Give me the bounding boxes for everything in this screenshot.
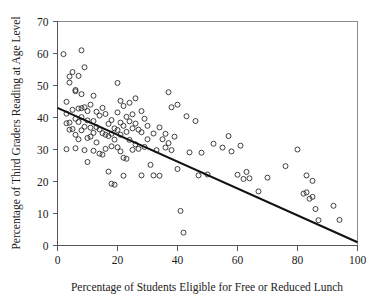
data-point [331, 203, 336, 208]
data-point [76, 73, 81, 78]
x-axis-ticks: 020406080100 [55, 246, 367, 266]
data-point [178, 208, 183, 213]
data-point [103, 111, 108, 116]
data-point [115, 80, 120, 85]
data-point [103, 146, 108, 151]
data-point [193, 119, 198, 124]
data-point [97, 113, 102, 118]
y-tick-label: 70 [37, 16, 49, 28]
y-tick-label: 40 [37, 112, 49, 124]
data-point [76, 137, 81, 142]
x-axis-title: Percentage of Students Eligible for Free… [71, 281, 343, 294]
data-point [163, 145, 168, 150]
scatter-plot-figure: 020406080100 010203040506070 Percentage … [0, 0, 382, 302]
y-tick-label: 30 [37, 144, 49, 156]
data-point [70, 107, 75, 112]
data-points-layer [61, 48, 342, 235]
data-point [109, 181, 114, 186]
plot-frame [58, 22, 358, 246]
data-point [130, 147, 135, 152]
data-point [283, 164, 288, 169]
data-point [109, 144, 114, 149]
data-point [175, 102, 180, 107]
y-tick-label: 10 [37, 208, 49, 220]
data-point [85, 135, 90, 140]
data-point [256, 189, 261, 194]
data-point [91, 130, 96, 135]
data-point [196, 173, 201, 178]
data-point [82, 148, 87, 153]
data-point [175, 167, 180, 172]
y-tick-label: 50 [37, 80, 49, 92]
data-point [301, 191, 306, 196]
data-point [133, 121, 138, 126]
data-point [76, 119, 81, 124]
data-point [94, 140, 99, 145]
data-point [64, 147, 69, 152]
data-point [172, 134, 177, 139]
data-point [211, 141, 216, 146]
data-point [265, 175, 270, 180]
data-point [244, 169, 249, 174]
data-point [151, 131, 156, 136]
data-point [100, 105, 105, 110]
data-point [310, 178, 315, 183]
data-point [295, 147, 300, 152]
x-tick-label: 40 [172, 254, 184, 266]
data-point [220, 145, 225, 150]
data-point [166, 141, 171, 146]
data-point [238, 143, 243, 148]
data-point [316, 218, 321, 223]
data-point [115, 110, 120, 115]
data-point [124, 156, 129, 161]
data-point [112, 137, 117, 142]
x-tick-label: 60 [232, 254, 244, 266]
data-point [139, 109, 144, 114]
data-point [124, 114, 129, 119]
data-point [88, 125, 93, 130]
x-tick-label: 0 [55, 254, 61, 266]
y-tick-label: 0 [43, 240, 49, 252]
data-point [184, 114, 189, 119]
data-point [166, 90, 171, 95]
data-point [187, 150, 192, 155]
data-point [109, 118, 114, 123]
data-point [82, 124, 87, 129]
data-point [100, 131, 105, 136]
data-point [85, 109, 90, 114]
y-tick-label: 20 [37, 176, 49, 188]
data-point [73, 146, 78, 151]
x-tick-label: 20 [112, 254, 124, 266]
data-point [163, 131, 168, 136]
data-point [85, 159, 90, 164]
data-point [226, 134, 231, 139]
data-point [121, 103, 126, 108]
data-point [118, 120, 123, 125]
data-point [106, 169, 111, 174]
x-tick-label: 80 [292, 254, 304, 266]
data-point [67, 120, 72, 125]
data-point [241, 176, 246, 181]
data-point [121, 173, 126, 178]
data-point [103, 132, 108, 137]
data-point [169, 148, 174, 153]
data-point [79, 106, 84, 111]
data-point [199, 150, 204, 155]
data-point [91, 93, 96, 98]
data-point [97, 151, 102, 156]
data-point [70, 70, 75, 75]
data-point [118, 98, 123, 103]
data-point [121, 155, 126, 160]
data-point [169, 105, 174, 110]
data-point [139, 173, 144, 178]
data-point [88, 102, 93, 107]
data-point [151, 173, 156, 178]
data-point [313, 207, 318, 212]
y-axis-ticks: 010203040506070 [37, 16, 58, 252]
data-point [304, 190, 309, 195]
data-point [79, 48, 84, 53]
scatter-plot-svg: 020406080100 010203040506070 Percentage … [0, 0, 382, 302]
data-point [160, 137, 165, 142]
data-point [142, 116, 147, 121]
data-point [61, 52, 66, 57]
